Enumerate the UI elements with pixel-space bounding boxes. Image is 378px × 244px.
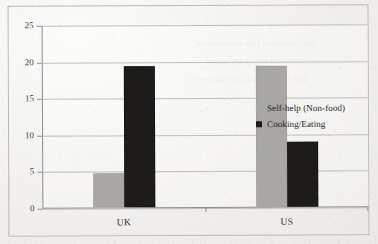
y-axis-tick-label: 15 <box>25 94 34 103</box>
bar-us-series-1 <box>287 141 318 206</box>
y-axis-tick-label: 0 <box>30 204 35 213</box>
x-axis-label-uk: UK <box>117 217 131 227</box>
x-axis-label-us: US <box>281 217 294 227</box>
scanned-chart-page: the results of this comparison are shown… <box>0 0 378 244</box>
bar-uk-series-0 <box>93 173 124 208</box>
legend-swatch-gray <box>256 105 262 111</box>
x-axis-tick <box>205 208 206 212</box>
x-axis-tick <box>367 207 368 211</box>
legend-item-1: Cooking/Eating <box>256 119 345 129</box>
y-axis-tick <box>37 172 42 173</box>
legend-item-label: Self-help (Non-food) <box>267 103 345 113</box>
y-axis-tick <box>37 26 42 27</box>
y-axis-tick-label: 5 <box>30 168 35 177</box>
y-gridlines <box>42 24 368 25</box>
chart-legend: Self-help (Non-food)Cooking/Eating <box>256 103 345 135</box>
bar-us-series-0 <box>255 65 287 206</box>
y-axis-tick-label: 25 <box>25 21 34 30</box>
y-axis-tick-label: 20 <box>25 58 34 67</box>
y-axis-tick <box>37 99 42 100</box>
legend-item-0: Self-help (Non-food) <box>256 103 345 113</box>
y-axis-tick <box>37 62 42 63</box>
legend-swatch-black <box>256 121 262 127</box>
y-axis-tick-label: 10 <box>25 131 34 140</box>
y-axis-tick <box>37 209 42 210</box>
bar-uk-series-1 <box>123 66 155 207</box>
y-axis-tick <box>37 136 42 137</box>
legend-item-label: Cooking/Eating <box>267 119 325 129</box>
